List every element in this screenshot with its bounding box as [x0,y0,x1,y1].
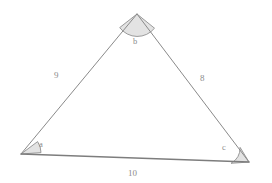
angle-label-c: c [222,143,226,152]
triangle-side-left [21,14,137,154]
side-length-label-right: 8 [200,74,205,83]
triangle-side-base [21,154,249,162]
angle-label-b: b [133,37,137,46]
side-length-label-base: 10 [128,169,137,178]
angle-wedge-a [21,142,41,154]
triangle-svg-canvas [0,0,272,183]
side-length-label-left: 9 [54,71,59,80]
angle-wedge-b [120,14,155,36]
triangle-diagram: 9 8 10 a b c [0,0,272,183]
angle-label-a: a [39,140,43,149]
triangle-side-right [137,14,249,162]
